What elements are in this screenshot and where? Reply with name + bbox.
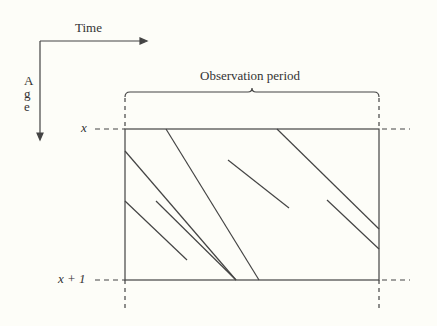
lifelines bbox=[125, 129, 379, 280]
age-axis-label: A g e bbox=[24, 74, 34, 113]
lifeline bbox=[228, 160, 289, 208]
lifeline bbox=[277, 129, 379, 229]
observation-period-label: Observation period bbox=[200, 69, 300, 82]
lifeline bbox=[327, 200, 379, 249]
lifeline bbox=[156, 201, 236, 280]
observation-rectangle bbox=[125, 129, 379, 280]
time-axis-label: Time bbox=[75, 21, 102, 34]
lifeline bbox=[125, 201, 187, 260]
age-x-plus-1-label: x + 1 bbox=[58, 272, 86, 285]
age-arrow-icon bbox=[37, 133, 43, 140]
age-x-label: x bbox=[81, 121, 87, 134]
time-arrow-icon bbox=[140, 38, 147, 44]
observation-brace bbox=[125, 88, 379, 97]
